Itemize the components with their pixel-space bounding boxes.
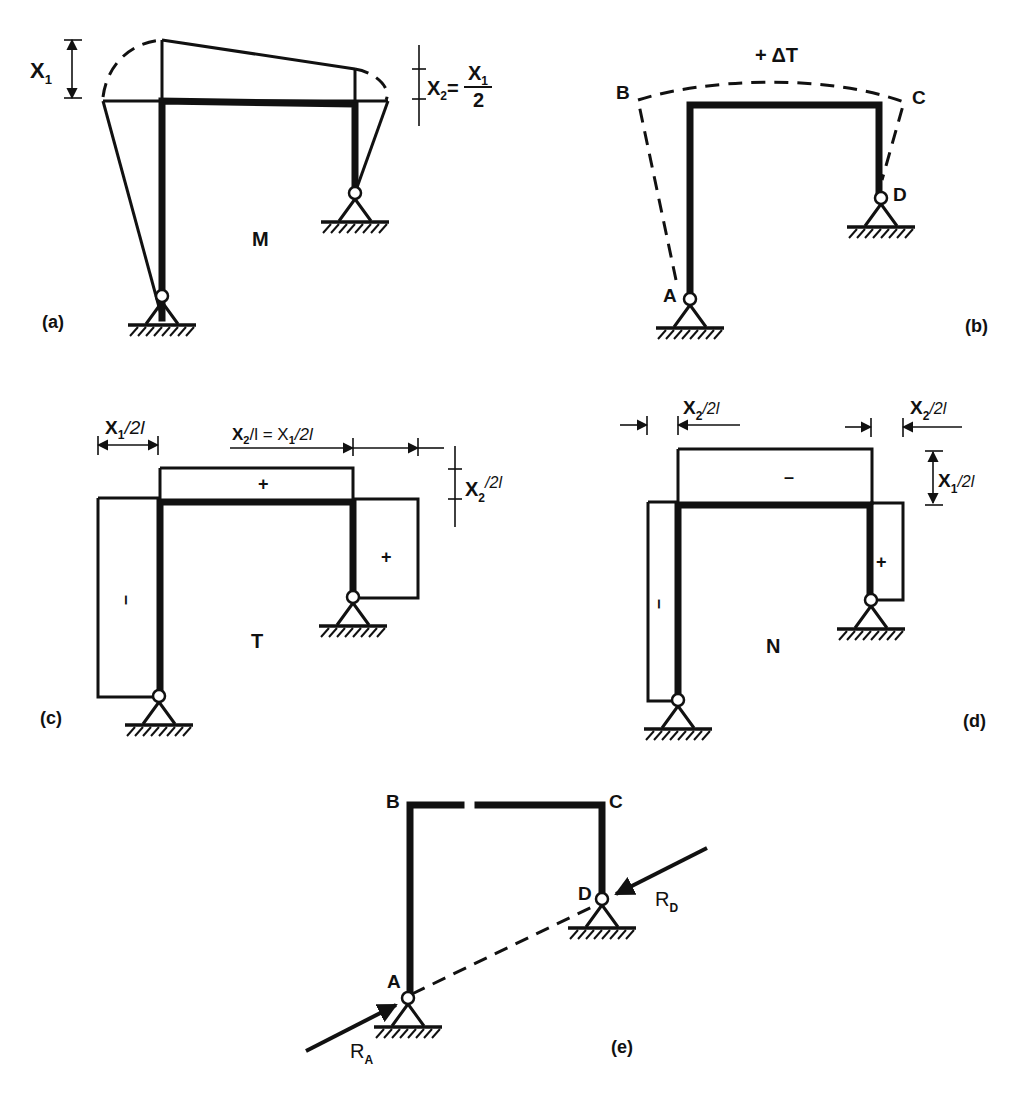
dim-x2-denominator: 2 (473, 89, 484, 111)
frame-a (162, 101, 355, 318)
caption-e: (e) (611, 1037, 633, 1057)
sign-beam: – (784, 467, 794, 487)
dim-x1-label: X1 (30, 58, 52, 87)
structural-frame-figure: X1 X2= X1 2 M (a) + ΔT B C D A (b) + – + (0, 0, 1024, 1093)
node-d-label: D (893, 184, 907, 205)
node-c-label: C (609, 791, 623, 812)
frame-e-left (410, 805, 461, 995)
caption-b: (b) (965, 316, 988, 336)
node-d-label: D (578, 883, 592, 904)
node-a-label: A (387, 971, 401, 992)
dim-right-x2-2l-label: X2/2l (910, 397, 947, 423)
node-b-label: B (386, 791, 400, 812)
frame-b (690, 105, 879, 293)
caption-a: (a) (42, 312, 64, 332)
panel-d-normal-force-diagram: – – + N X2/2l X2/2l X1/2l (d) (620, 397, 986, 740)
diagram-label-n: N (766, 635, 780, 657)
dim-x2-label: X2= (427, 77, 459, 103)
dim-x2-l-eq-label: X2/l = X1/2l (232, 425, 314, 446)
sign-beam: + (258, 474, 269, 494)
sign-left-column: – (650, 599, 670, 609)
node-b-label: B (616, 82, 630, 103)
panel-e-reactions: B C D A RA RD (e) (306, 791, 707, 1067)
reaction-ra-label: RA (350, 1040, 373, 1067)
diagram-label-t: T (251, 630, 263, 652)
diagram-label-m: M (252, 228, 269, 250)
dim-x2-numerator: X1 (468, 62, 488, 88)
frame-d (678, 505, 870, 700)
dim-left-x2-2l-label: X2/2l (683, 397, 720, 423)
sign-right-column: + (876, 552, 887, 572)
reaction-rd-label: RD (655, 888, 678, 915)
sign-right-column: + (381, 547, 392, 567)
sign-left-column: – (117, 595, 137, 605)
pin-support-icon (374, 992, 442, 1038)
frame-e-right (478, 805, 602, 895)
panel-c-shear-diagram: + – + T X1/2l X2/l = X1/2l X2/2l (c) (40, 417, 502, 736)
pin-support-icon (321, 187, 389, 233)
frame-c (160, 502, 353, 691)
panel-b-thermal-deformation: + ΔT B C D A (b) (616, 44, 988, 339)
dim-x1-2l-label: X1/2l (105, 417, 145, 442)
dim-x1-2l-label: X1/2l (938, 470, 975, 496)
caption-d: (d) (963, 711, 986, 731)
node-a-label: A (663, 285, 677, 306)
caption-c: (c) (40, 708, 62, 728)
load-delta-t-label: + ΔT (755, 44, 798, 66)
dim-x2-2l-label: X2/2l (465, 474, 502, 505)
node-c-label: C (912, 87, 926, 108)
panel-a-moment-diagram: X1 X2= X1 2 M (a) (30, 40, 492, 336)
